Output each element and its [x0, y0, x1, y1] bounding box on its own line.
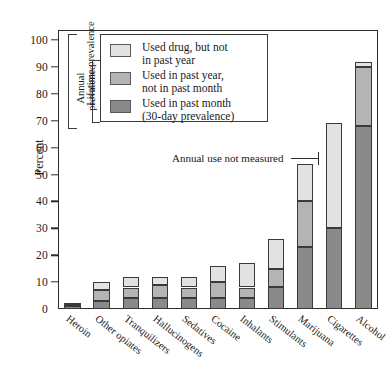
annotation-leader-tick [318, 152, 319, 165]
legend-swatch-past-month [110, 100, 131, 113]
legend-item-2: Used in past month (30-day prevalence) [110, 97, 234, 123]
y-tick-mark-70 [51, 120, 58, 121]
bar-segment-not_past_year [239, 263, 255, 287]
bar-segment-past_year_not_month [210, 282, 226, 298]
bar-segment-past_year_not_month [239, 288, 255, 299]
legend-swatch-past-year-not-month [110, 72, 131, 85]
bar-segment-past_month [210, 298, 226, 309]
bar-stimulants [268, 30, 284, 309]
y-tick-mark-30 [51, 228, 58, 229]
legend-item-0: Used drug, but not in past year [110, 41, 228, 67]
bar-segment-past_month [268, 287, 284, 309]
bar-segment-past_month [93, 301, 109, 309]
legend-label-0: Used drug, but not in past year [142, 41, 228, 67]
bar-segment-not_past_year [123, 277, 139, 288]
y-tick-mark-10 [51, 281, 58, 282]
y-tick-mark-50 [51, 174, 58, 175]
bar-segment-past_year_not_month [93, 290, 109, 301]
bar-segment-not_past_year [268, 239, 284, 269]
bar-segment-past_month [181, 298, 197, 309]
y-tick-label-20: 20 [36, 249, 48, 261]
bar-segment-not_past_year [210, 266, 226, 282]
bar-segment-past_month [355, 126, 371, 309]
bar-segment-not_past_year [297, 164, 313, 202]
y-tick-label-50: 50 [36, 169, 48, 181]
bar-segment-not_past_year [181, 277, 197, 288]
y-tick-label-100: 100 [30, 34, 48, 46]
bar-segment-past_month [297, 247, 313, 309]
bar-marijuana [297, 30, 313, 309]
bracket-label-annual-prevalence: Annual prevalence [75, 57, 97, 119]
y-tick-label-70: 70 [36, 115, 48, 127]
y-tick-label-0: 0 [42, 303, 48, 315]
bar-segment-past_month [123, 298, 139, 309]
annotation-leader-line [291, 158, 319, 159]
bar-segment-past_year_not_month [152, 285, 168, 298]
bar-segment-past_month [152, 298, 168, 309]
y-tick-mark-40 [51, 201, 58, 202]
y-tick-mark-90 [51, 66, 58, 67]
y-tick-label-80: 80 [36, 88, 48, 100]
bar-segment-not_past_year [326, 123, 342, 228]
bar-segment-past_month [326, 228, 342, 309]
bar-segment-past_year_not_month [123, 288, 139, 299]
bar-segment-not_past_year [93, 282, 109, 290]
legend-label-2: Used in past month (30-day prevalence) [142, 97, 234, 123]
y-tick-mark-20 [51, 254, 58, 255]
bar-alcohol [355, 30, 371, 309]
y-tick-label-90: 90 [36, 61, 48, 73]
x-axis-labels: HeroinOther opiatesTranquilizersHallucin… [58, 309, 378, 385]
legend-swatch-not-past-year [110, 44, 131, 57]
y-tick-label-40: 40 [36, 195, 48, 207]
bar-segment-past_month [239, 298, 255, 309]
bar-segment-not_past_year [355, 62, 371, 67]
y-axis: Percent 0102030405060708090100 [0, 0, 58, 385]
y-tick-label-10: 10 [36, 276, 48, 288]
legend-item-1: Used in past year, not in past month [110, 69, 224, 95]
bar-segment-not_past_year [152, 277, 168, 285]
legend-label-1: Used in past year, not in past month [142, 69, 224, 95]
bar-segment-past_year_not_month [297, 201, 313, 247]
y-tick-mark-80 [51, 93, 58, 94]
bar-cigarettes [326, 30, 342, 309]
bar-segment-past_year_not_month [268, 269, 284, 288]
y-tick-mark-100 [51, 39, 58, 40]
annotation-annual-use-not-measured: Annual use not measured [172, 152, 284, 164]
bar-segment-not_past_year [64, 303, 80, 305]
y-tick-label-60: 60 [36, 142, 48, 154]
y-tick-mark-60 [51, 147, 58, 148]
legend: Used drug, but not in past year Used in … [100, 34, 268, 122]
prevalence-bar-chart: Percent 0102030405060708090100 HeroinOth… [0, 0, 388, 385]
bar-segment-past_year_not_month [355, 67, 371, 126]
y-tick-label-30: 30 [36, 222, 48, 234]
bar-segment-past_year_not_month [181, 288, 197, 299]
x-tick-label-heroin: Heroin [64, 313, 94, 340]
